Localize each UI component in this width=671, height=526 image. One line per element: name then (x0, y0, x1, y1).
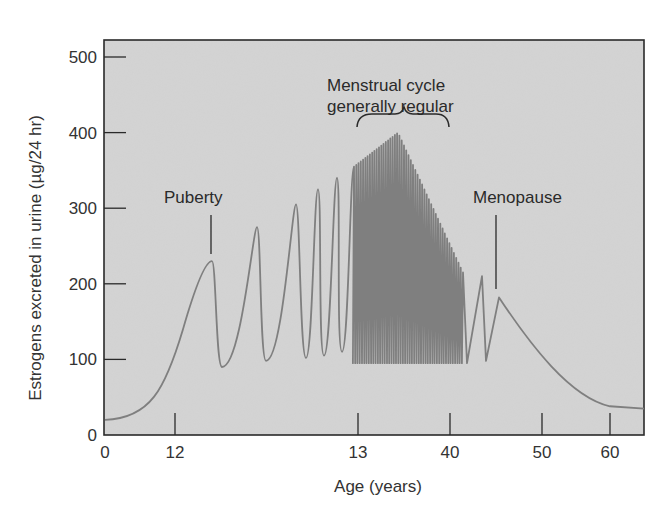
x-tick-label: 40 (441, 443, 460, 462)
puberty-label: Puberty (164, 188, 223, 207)
y-tick-label: 300 (69, 199, 97, 218)
menopause-label: Menopause (473, 188, 562, 207)
y-tick-label: 500 (69, 48, 97, 67)
x-tick-label: 0 (100, 443, 109, 462)
x-tick-label: 13 (349, 443, 368, 462)
menstrual-cycle-label-line1: Menstrual cycle (327, 76, 445, 95)
y-tick-label: 0 (88, 426, 97, 445)
y-tick-label: 400 (69, 124, 97, 143)
x-tick-label: 50 (533, 443, 552, 462)
x-tick-label: 60 (601, 443, 620, 462)
y-axis-title: Estrogens excreted in urine (µg/24 hr) (26, 115, 45, 401)
y-tick-label: 100 (69, 350, 97, 369)
menstrual-cycle-label-line2: generally regular (327, 97, 454, 116)
x-axis-title: Age (years) (334, 477, 422, 496)
estrogen-chart: 0100200300400500 01213405060 Puberty Men… (0, 0, 671, 526)
y-tick-label: 200 (69, 275, 97, 294)
x-tick-label: 12 (166, 443, 185, 462)
